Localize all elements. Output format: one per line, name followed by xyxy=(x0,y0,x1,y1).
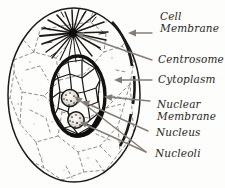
centrosome-dot xyxy=(69,29,78,38)
label-nucleoli: Nucleoli xyxy=(155,148,201,160)
cell-diagram-figure: Cell Membrane Centrosome Cytoplasm Nucle… xyxy=(0,0,225,188)
label-cell-membrane-line1: Cell xyxy=(160,11,219,23)
label-centrosome: Centrosome xyxy=(158,54,224,66)
label-cell-membrane: Cell Membrane xyxy=(160,11,219,34)
label-nuclear-membrane: Nuclear Membrane xyxy=(157,99,216,122)
leader-cell-membrane xyxy=(128,30,152,37)
label-nucleus: Nucleus xyxy=(156,127,201,139)
leader-nuclear-membrane xyxy=(104,94,150,101)
label-nuclear-membrane-line2: Membrane xyxy=(157,111,216,123)
label-nuclear-membrane-line1: Nuclear xyxy=(157,99,216,111)
nucleolus-lower xyxy=(68,112,84,128)
label-cytoplasm: Cytoplasm xyxy=(158,74,216,86)
label-cell-membrane-line2: Membrane xyxy=(160,23,219,35)
